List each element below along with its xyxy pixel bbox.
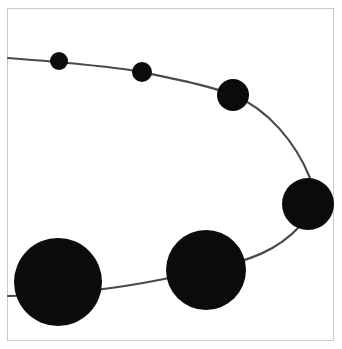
data-point-marker[interactable]: [217, 79, 249, 111]
marker-layer: [14, 52, 334, 326]
data-point-marker[interactable]: [282, 178, 334, 230]
data-point-marker[interactable]: [166, 230, 246, 310]
data-point-marker[interactable]: [14, 238, 102, 326]
plot-area: [0, 0, 342, 349]
data-point-marker[interactable]: [50, 52, 68, 70]
figure-canvas: [0, 0, 342, 349]
data-point-marker[interactable]: [132, 62, 152, 82]
